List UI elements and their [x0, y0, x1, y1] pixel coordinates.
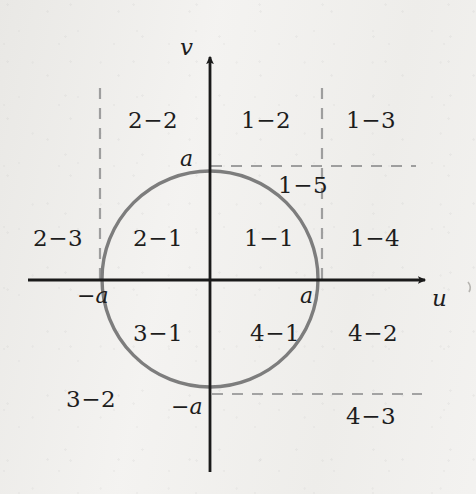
tick-label-v-positive-a: a — [180, 146, 193, 171]
tick-label-u-negative-a: −a — [77, 283, 109, 308]
region-label-2-1: 2−1 — [133, 225, 183, 251]
page-edge-artifact — [468, 282, 470, 292]
uv-plane-figure: v u a −a a −a 2−2 1−2 1−3 1−5 2−3 2−1 1−… — [0, 0, 476, 494]
region-label-3-1: 3−1 — [133, 320, 183, 346]
region-label-1-2: 1−2 — [241, 107, 291, 133]
region-label-2-3: 2−3 — [33, 225, 83, 251]
region-label-1-4: 1−4 — [350, 225, 400, 251]
region-label-1-5: 1−5 — [278, 172, 328, 198]
axis-name-v: v — [180, 34, 193, 60]
axis-name-u: u — [432, 285, 447, 311]
region-label-4-1: 4−1 — [250, 320, 300, 346]
region-label-1-3: 1−3 — [346, 107, 396, 133]
tick-label-u-positive-a: a — [300, 283, 313, 308]
region-label-1-1: 1−1 — [244, 225, 294, 251]
region-label-3-2: 3−2 — [66, 386, 116, 412]
tick-label-v-negative-a: −a — [171, 394, 203, 419]
region-label-4-3: 4−3 — [346, 403, 396, 429]
region-label-4-2: 4−2 — [348, 320, 398, 346]
region-label-2-2: 2−2 — [128, 107, 178, 133]
